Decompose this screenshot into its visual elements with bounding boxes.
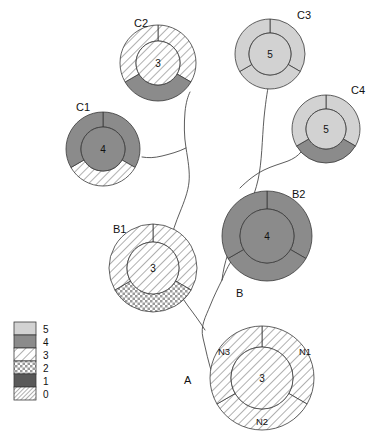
node-c1-core-value: 4 xyxy=(100,144,106,155)
legend-label-2: 2 xyxy=(43,363,49,374)
tip-label-b: B xyxy=(236,287,243,299)
branch-b1-to-c2 xyxy=(170,92,190,244)
node-label-c3: C3 xyxy=(297,9,311,21)
branch-c-to-c1 xyxy=(142,148,186,158)
node-label-c4: C4 xyxy=(351,84,365,96)
node-c1[interactable]: 4C1 xyxy=(66,101,140,186)
node-a-label-n1: N1 xyxy=(299,346,311,357)
node-b1[interactable]: 3B1 xyxy=(109,223,197,312)
legend-label-3: 3 xyxy=(43,350,49,361)
node-a-label-n3: N3 xyxy=(218,346,230,357)
node-b2-core-value: 4 xyxy=(264,231,270,242)
legend-swatch-5 xyxy=(14,322,36,335)
legend-label-0: 0 xyxy=(43,389,49,400)
node-c3-core-value: 5 xyxy=(267,49,273,60)
legend-swatch-3 xyxy=(14,348,36,361)
node-a-core-value: 3 xyxy=(259,373,265,384)
node-layer: 3N1N2N33B14B24C13C25C35C4 xyxy=(66,9,365,430)
node-label-b1: B1 xyxy=(113,223,126,235)
node-c2[interactable]: 3C2 xyxy=(120,17,196,101)
node-label-b2: B2 xyxy=(292,188,305,200)
tree-diagram: 3N1N2N33B14B24C13C25C35C4 AB 543210 xyxy=(0,0,381,444)
node-c4[interactable]: 5C4 xyxy=(292,84,365,163)
node-label-c1: C1 xyxy=(76,101,90,113)
node-a-label-n2: N2 xyxy=(256,416,268,427)
legend-swatch-2 xyxy=(14,361,36,374)
node-c4-core-value: 5 xyxy=(323,124,329,135)
node-c3[interactable]: 5C3 xyxy=(235,9,311,89)
tip-label-a: A xyxy=(184,374,192,386)
legend-swatch-0 xyxy=(14,387,36,400)
legend-label-5: 5 xyxy=(43,324,49,335)
node-b2[interactable]: 4B2 xyxy=(222,188,312,281)
legend-label-4: 4 xyxy=(43,337,49,348)
legend-label-1: 1 xyxy=(43,376,49,387)
node-b1-core-value: 3 xyxy=(150,263,156,274)
node-label-c2: C2 xyxy=(134,17,148,29)
branch-b2-to-c4 xyxy=(240,152,301,188)
legend-swatch-4 xyxy=(14,335,36,348)
node-c2-core-value: 3 xyxy=(155,58,161,69)
diagram-canvas: 3N1N2N33B14B24C13C25C35C4 AB 543210 xyxy=(0,0,381,444)
legend-swatch-1 xyxy=(14,374,36,387)
node-a[interactable]: 3N1N2N3 xyxy=(210,326,314,430)
state-legend: 543210 xyxy=(14,322,49,400)
